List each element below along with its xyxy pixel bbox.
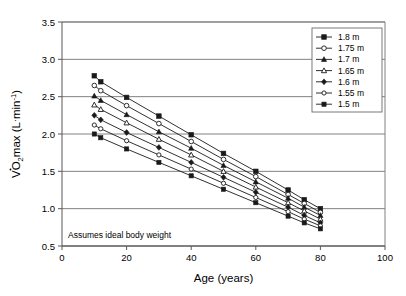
data-point-1-5 bbox=[221, 157, 226, 162]
data-point-5-7 bbox=[286, 210, 290, 214]
data-point-6-5 bbox=[221, 187, 225, 191]
data-point-1-1 bbox=[98, 88, 103, 93]
y-tick-label-3.5: 3.5 bbox=[42, 17, 55, 28]
x-tick-label-80: 80 bbox=[315, 252, 326, 263]
y-tick-label-2.0: 2.0 bbox=[42, 129, 55, 140]
y-tick-label-1.5: 1.5 bbox=[42, 166, 55, 177]
legend-marker-filled-square-small bbox=[322, 102, 326, 106]
data-point-0-5 bbox=[221, 151, 226, 156]
data-point-0-6 bbox=[254, 169, 259, 174]
legend-label-5: 1.55 m bbox=[338, 88, 364, 98]
data-point-6-3 bbox=[157, 160, 161, 164]
data-point-6-6 bbox=[254, 201, 258, 205]
y-tick-label-2.5: 2.5 bbox=[42, 91, 55, 102]
x-tick-label-100: 100 bbox=[377, 252, 393, 263]
data-point-5-5 bbox=[221, 181, 225, 185]
data-point-5-1 bbox=[99, 127, 103, 131]
data-point-1-0 bbox=[92, 83, 97, 88]
legend-marker-open-circle bbox=[322, 46, 327, 51]
data-point-0-1 bbox=[98, 79, 103, 84]
data-point-1-4 bbox=[189, 139, 194, 144]
legend-label-1: 1.75 m bbox=[338, 43, 364, 53]
data-point-1-2 bbox=[124, 103, 129, 108]
data-point-0-4 bbox=[189, 132, 194, 137]
data-point-6-4 bbox=[189, 174, 193, 178]
data-point-6-8 bbox=[302, 221, 306, 225]
data-point-5-0 bbox=[92, 123, 96, 127]
data-point-6-9 bbox=[318, 227, 322, 231]
data-point-1-6 bbox=[254, 174, 259, 179]
legend-label-6: 1.5 m bbox=[338, 99, 359, 109]
x-tick-label-0: 0 bbox=[59, 252, 64, 263]
data-point-6-7 bbox=[286, 214, 290, 218]
x-tick-label-20: 20 bbox=[121, 252, 132, 263]
vo2max-age-line-chart: 0.51.01.52.02.53.03.5020406080100Assumes… bbox=[0, 0, 406, 296]
data-point-6-1 bbox=[99, 136, 103, 140]
y-tick-label-3.0: 3.0 bbox=[42, 54, 55, 65]
y-tick-label-1.0: 1.0 bbox=[42, 203, 55, 214]
plot-annotation: Assumes ideal body weight bbox=[68, 230, 172, 240]
y-tick-label-0.5: 0.5 bbox=[42, 241, 55, 252]
legend-label-3: 1.65 m bbox=[338, 66, 364, 76]
legend-marker-filled-square bbox=[322, 35, 327, 40]
chart-figure: 0.51.01.52.02.53.03.5020406080100Assumes… bbox=[0, 0, 406, 296]
data-point-5-6 bbox=[254, 195, 258, 199]
data-point-0-2 bbox=[124, 95, 129, 100]
legend-label-0: 1.8 m bbox=[338, 32, 359, 42]
data-point-0-3 bbox=[157, 114, 162, 119]
legend: 1.8 m1.75 m1.7 m1.65 m1.6 m1.55 m1.5 m bbox=[312, 28, 382, 112]
x-axis-title: Age (years) bbox=[194, 272, 254, 284]
data-point-0-7 bbox=[286, 188, 291, 193]
data-point-5-2 bbox=[125, 139, 129, 143]
x-tick-label-40: 40 bbox=[186, 252, 197, 263]
legend-label-4: 1.6 m bbox=[338, 77, 359, 87]
data-point-6-0 bbox=[92, 132, 96, 136]
data-point-0-0 bbox=[92, 73, 97, 78]
y-axis-title-overdot bbox=[10, 169, 12, 171]
data-point-6-2 bbox=[125, 147, 129, 151]
x-tick-label-60: 60 bbox=[251, 252, 262, 263]
data-point-5-4 bbox=[189, 167, 193, 171]
data-point-1-3 bbox=[157, 121, 162, 126]
legend-label-2: 1.7 m bbox=[338, 54, 359, 64]
legend-marker-open-circle-small bbox=[322, 91, 326, 95]
data-point-5-3 bbox=[157, 153, 161, 157]
